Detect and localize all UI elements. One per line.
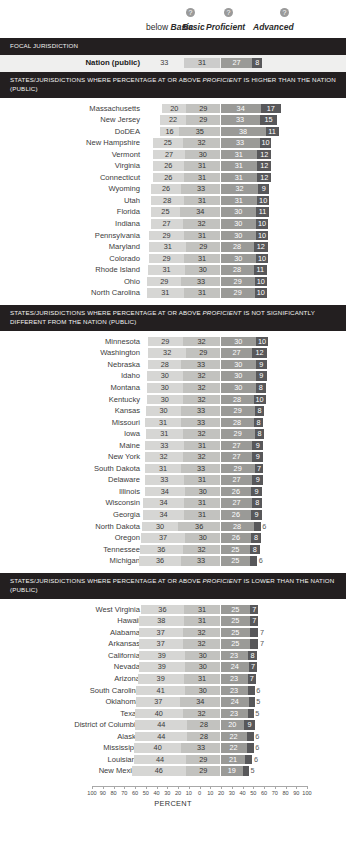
- segment-advanced: 9: [244, 720, 255, 730]
- help-icon-proficient[interactable]: ?: [224, 8, 233, 17]
- table-row[interactable]: South Dakota3133297: [0, 463, 346, 475]
- table-row[interactable]: Rhode Island31302811: [0, 264, 346, 276]
- axis-tick: [307, 786, 308, 789]
- table-row[interactable]: Maryland31292812: [0, 241, 346, 253]
- table-row[interactable]: Washington32292712: [0, 347, 346, 359]
- table-row[interactable]: Massachusetts20293417: [0, 103, 346, 115]
- axis-tick-label: 0: [198, 790, 201, 796]
- table-row[interactable]: Florida25343011: [0, 206, 346, 218]
- axis-tick: [200, 786, 201, 789]
- table-row[interactable]: Connecticut26313112: [0, 172, 346, 184]
- segment-proficient: 30: [221, 231, 257, 241]
- segment-basic: 29: [186, 242, 220, 252]
- table-row[interactable]: Montana3032308: [0, 382, 346, 394]
- table-row[interactable]: Mississippi4033226: [0, 742, 346, 754]
- table-row[interactable]: Ohio29332910: [0, 276, 346, 288]
- table-row[interactable]: Tennessee3632258: [0, 544, 346, 556]
- table-row[interactable]: Texas4032235: [0, 708, 346, 720]
- table-row[interactable]: Arkansas3732257: [0, 638, 346, 650]
- segment-below-basic: 27: [151, 219, 183, 229]
- segment-proficient: 23: [221, 709, 248, 719]
- row-label: Kansas: [115, 405, 140, 417]
- table-row[interactable]: Pennsylvania29313010: [0, 230, 346, 242]
- segment-basic: 30: [185, 265, 221, 275]
- table-row[interactable]: Idaho3032309: [0, 370, 346, 382]
- table-row[interactable]: California3930238: [0, 650, 346, 662]
- table-row[interactable]: Nevada3930247: [0, 661, 346, 673]
- axis-tick-label: 80: [282, 790, 288, 796]
- axis-tick: [264, 786, 265, 789]
- category-label-advanced: Advanced: [253, 22, 294, 32]
- segment-below-basic: 31: [145, 418, 182, 428]
- table-row[interactable]: DoDEA16353811: [0, 126, 346, 138]
- table-row[interactable]: Delaware3331279: [0, 474, 346, 486]
- segment-proficient: 20: [221, 720, 245, 730]
- table-row[interactable]: Wisconsin3431278: [0, 497, 346, 509]
- segment-below-basic: 39: [139, 662, 185, 672]
- segment-advanced: 8: [251, 533, 260, 543]
- table-row[interactable]: Oklahoma3734245: [0, 696, 346, 708]
- segment-advanced: 12: [252, 348, 266, 358]
- segment-proficient: 24: [221, 697, 249, 707]
- table-row[interactable]: New Jersey22293315: [0, 114, 346, 126]
- table-row[interactable]: Illinois3430269: [0, 486, 346, 498]
- segment-proficient: 34: [221, 104, 261, 114]
- row-label: Tennessee: [103, 544, 140, 556]
- table-row[interactable]: District of Columbia4428209: [0, 719, 346, 731]
- table-row[interactable]: Colorado29313010: [0, 253, 346, 265]
- row-label: Oklahoma: [105, 696, 140, 708]
- segment-basic: 31: [184, 196, 221, 206]
- row-label: New Jersey: [100, 114, 140, 126]
- column-header: ? ? ? below Basic Basic Proficient Advan…: [0, 0, 346, 38]
- table-row[interactable]: New Hampshire25323310: [0, 137, 346, 149]
- table-row[interactable]: West Virginia3631257: [0, 604, 346, 616]
- segment-below-basic: 44: [134, 755, 186, 765]
- segment-proficient: 28: [221, 395, 254, 405]
- table-row[interactable]: Wyoming2633329: [0, 183, 346, 195]
- segment-below-basic: 30: [147, 383, 183, 393]
- row-label: Ohio: [124, 276, 140, 288]
- table-row[interactable]: Utah28313110: [0, 195, 346, 207]
- segment-advanced-label: 7: [258, 628, 270, 638]
- segment-basic: 29: [186, 104, 220, 114]
- segment-below-basic: 36: [140, 545, 183, 555]
- table-row[interactable]: Kentucky30322810: [0, 394, 346, 406]
- row-label: Nation (public): [85, 57, 140, 69]
- table-row[interactable]: Maine3331279: [0, 440, 346, 452]
- segment-proficient: 27: [221, 58, 253, 68]
- table-row[interactable]: Iowa3132298: [0, 428, 346, 440]
- help-icon-advanced[interactable]: ?: [280, 8, 289, 17]
- row-label: Florida: [117, 206, 140, 218]
- segment-basic: 32: [183, 709, 221, 719]
- table-row[interactable]: Georgia3431269: [0, 509, 346, 521]
- axis-tick: [189, 786, 190, 789]
- segment-advanced: [245, 755, 252, 765]
- table-row[interactable]: Nebraska2833309: [0, 359, 346, 371]
- table-row[interactable]: North Dakota3036286: [0, 521, 346, 533]
- table-row[interactable]: Missouri3133288: [0, 417, 346, 429]
- table-row[interactable]: Minnesota29323010: [0, 336, 346, 348]
- help-icon-basic[interactable]: ?: [186, 8, 195, 17]
- focal-row[interactable]: Nation (public)3331278: [0, 57, 346, 69]
- table-row[interactable]: Oregon3730268: [0, 532, 346, 544]
- table-row[interactable]: Arizona3931237: [0, 673, 346, 685]
- table-row[interactable]: South Carolina4130236: [0, 685, 346, 697]
- table-row[interactable]: Kansas3033298: [0, 405, 346, 417]
- segment-below-basic: 28: [151, 196, 184, 206]
- table-row[interactable]: New Mexico4629195: [0, 765, 346, 777]
- axis-tick: [253, 786, 254, 789]
- table-row[interactable]: Alabama3732257: [0, 627, 346, 639]
- table-row[interactable]: North Carolina31312910: [0, 287, 346, 299]
- segment-basic: 30: [185, 533, 221, 543]
- table-row[interactable]: Alaska4428226: [0, 731, 346, 743]
- table-row[interactable]: Vermont27303112: [0, 149, 346, 161]
- table-row[interactable]: Indiana27323010: [0, 218, 346, 230]
- section-rows: Massachusetts20293417New Jersey22293315D…: [0, 98, 346, 305]
- table-row[interactable]: Hawaii3831257: [0, 615, 346, 627]
- table-row[interactable]: Michigan3633256: [0, 555, 346, 567]
- table-row[interactable]: Virginia26313112: [0, 160, 346, 172]
- table-row[interactable]: New York3232279: [0, 451, 346, 463]
- segment-basic: 30: [185, 487, 221, 497]
- table-row[interactable]: Louisiana4429216: [0, 754, 346, 766]
- segment-basic: 31: [184, 254, 221, 264]
